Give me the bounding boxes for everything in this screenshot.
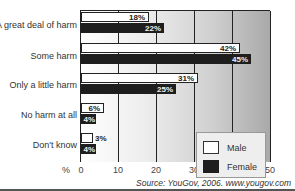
value-label: 42% bbox=[220, 44, 236, 53]
gridline-30 bbox=[194, 11, 195, 162]
bar-female: 22% bbox=[81, 23, 164, 33]
x-tick-label: 0 bbox=[78, 165, 83, 175]
bar-female: 25% bbox=[81, 84, 176, 94]
value-label: 18% bbox=[129, 13, 145, 22]
source-note: Source: YouGov, 2006. www.yougov.com bbox=[136, 178, 291, 188]
axis-unit-label: % bbox=[62, 165, 70, 175]
bar-male: 6% bbox=[81, 103, 104, 113]
bar-male: 42% bbox=[81, 43, 240, 53]
legend-swatch-male bbox=[203, 141, 219, 154]
legend-label-female: Female bbox=[227, 162, 257, 172]
bar-male: 31% bbox=[81, 73, 198, 83]
value-label: 22% bbox=[145, 24, 161, 33]
category-label: Don't know bbox=[33, 140, 77, 150]
value-label: 6% bbox=[88, 104, 100, 113]
bar-female: 45% bbox=[81, 54, 251, 64]
value-label: 31% bbox=[178, 74, 194, 83]
legend-swatch-female bbox=[203, 160, 219, 173]
value-label: 4% bbox=[83, 115, 95, 124]
gridline-50 bbox=[270, 11, 271, 162]
bar-female: 4% bbox=[81, 114, 96, 124]
value-label: 45% bbox=[232, 55, 248, 64]
category-label: A great deal of harm bbox=[0, 20, 77, 30]
bar-female: 4% bbox=[81, 144, 96, 154]
x-tick-label: 10 bbox=[113, 165, 123, 175]
category-label: Only a little harm bbox=[9, 80, 77, 90]
value-label: 3% bbox=[95, 134, 107, 143]
legend: Male Female bbox=[196, 132, 266, 178]
x-tick-label: 50 bbox=[265, 165, 275, 175]
value-label: 4% bbox=[83, 145, 95, 154]
bar-male: 18% bbox=[81, 12, 149, 22]
legend-label-male: Male bbox=[227, 143, 247, 153]
bottom-divider bbox=[0, 189, 295, 191]
value-label: 25% bbox=[157, 85, 173, 94]
category-label: Some harm bbox=[30, 51, 77, 61]
category-label: No harm at all bbox=[21, 110, 77, 120]
x-tick-label: 20 bbox=[151, 165, 161, 175]
bar-male bbox=[81, 133, 93, 143]
